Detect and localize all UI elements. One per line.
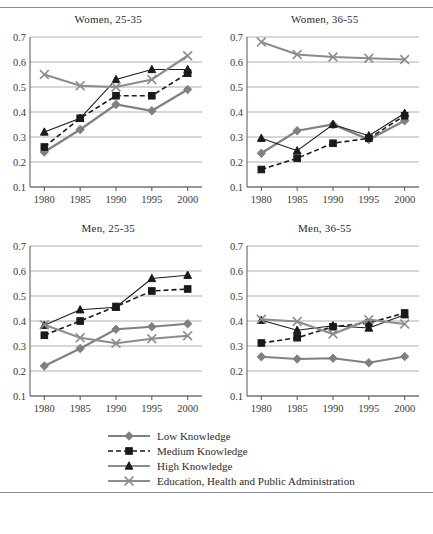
- svg-text:2000: 2000: [394, 194, 415, 205]
- svg-text:0.2: 0.2: [229, 366, 242, 377]
- svg-text:1990: 1990: [322, 403, 343, 414]
- chart-panel-grid: Women, 25-35 0.10.20.30.40.50.60.7198019…: [0, 8, 433, 426]
- svg-text:0.5: 0.5: [229, 291, 242, 302]
- svg-text:1990: 1990: [106, 194, 127, 205]
- panel-men-36-55: Men, 36-55 0.10.20.30.40.50.60.719801985…: [217, 217, 433, 426]
- svg-text:0.7: 0.7: [229, 241, 242, 252]
- svg-text:0.7: 0.7: [13, 241, 26, 252]
- legend-label: Low Knowledge: [157, 430, 231, 442]
- svg-text:0.5: 0.5: [13, 291, 26, 302]
- svg-text:0.3: 0.3: [13, 341, 26, 352]
- svg-text:0.4: 0.4: [13, 316, 27, 327]
- svg-text:0.4: 0.4: [229, 316, 243, 327]
- svg-text:2000: 2000: [177, 403, 198, 414]
- svg-text:2000: 2000: [394, 403, 415, 414]
- panel-title: Women, 25-35: [0, 13, 217, 25]
- plot-area-women-25-35: 0.10.20.30.40.50.60.71980198519901995200…: [0, 27, 217, 217]
- diamond-marker-icon: [106, 429, 152, 443]
- svg-text:1985: 1985: [70, 403, 91, 414]
- legend-item-medium-knowledge: Medium Knowledge: [106, 443, 433, 458]
- svg-text:1990: 1990: [322, 194, 343, 205]
- svg-text:1995: 1995: [141, 403, 162, 414]
- svg-text:0.4: 0.4: [229, 107, 243, 118]
- svg-text:1980: 1980: [34, 194, 55, 205]
- legend-label: Education, Health and Public Administrat…: [157, 475, 355, 487]
- bottom-divider-rule: [0, 492, 433, 493]
- svg-text:0.3: 0.3: [229, 132, 242, 143]
- triangle-marker-icon: [106, 459, 152, 473]
- svg-text:1995: 1995: [358, 194, 379, 205]
- svg-text:1980: 1980: [34, 403, 55, 414]
- svg-text:2000: 2000: [177, 194, 198, 205]
- x-marker-icon: [106, 474, 152, 488]
- svg-text:0.1: 0.1: [13, 391, 26, 402]
- svg-text:0.6: 0.6: [13, 57, 26, 68]
- svg-text:0.1: 0.1: [229, 391, 242, 402]
- svg-text:0.2: 0.2: [13, 157, 26, 168]
- svg-text:1980: 1980: [250, 403, 271, 414]
- panel-title: Women, 36-55: [217, 13, 433, 25]
- svg-text:0.7: 0.7: [229, 32, 242, 43]
- square-marker-icon: [106, 444, 152, 458]
- svg-text:1995: 1995: [358, 403, 379, 414]
- svg-text:1980: 1980: [250, 194, 271, 205]
- plot-area-men-25-35: 0.10.20.30.40.50.60.71980198519901995200…: [0, 236, 217, 426]
- svg-text:1985: 1985: [286, 403, 307, 414]
- svg-text:0.7: 0.7: [13, 32, 26, 43]
- svg-text:0.1: 0.1: [229, 182, 242, 193]
- panel-women-36-55: Women, 36-55 0.10.20.30.40.50.60.7198019…: [217, 8, 433, 217]
- svg-text:0.2: 0.2: [229, 157, 242, 168]
- svg-text:0.5: 0.5: [13, 82, 26, 93]
- svg-text:0.3: 0.3: [13, 132, 26, 143]
- legend-label: High Knowledge: [157, 460, 232, 472]
- legend-item-high-knowledge: High Knowledge: [106, 458, 433, 473]
- svg-text:0.4: 0.4: [13, 107, 27, 118]
- panel-men-25-35: Men, 25-35 0.10.20.30.40.50.60.719801985…: [0, 217, 217, 426]
- plot-area-men-36-55: 0.10.20.30.40.50.60.71980198519901995200…: [217, 236, 433, 426]
- panel-title: Men, 25-35: [0, 222, 217, 234]
- chart-legend: Low Knowledge Medium Knowledge High Know…: [0, 428, 433, 488]
- svg-text:0.5: 0.5: [229, 82, 242, 93]
- plot-area-women-36-55: 0.10.20.30.40.50.60.71980198519901995200…: [217, 27, 433, 217]
- panel-women-25-35: Women, 25-35 0.10.20.30.40.50.60.7198019…: [0, 8, 217, 217]
- svg-text:0.6: 0.6: [229, 266, 242, 277]
- svg-text:0.1: 0.1: [13, 182, 26, 193]
- legend-label: Medium Knowledge: [157, 445, 248, 457]
- legend-item-education-health-public-administration: Education, Health and Public Administrat…: [106, 473, 433, 488]
- svg-text:1995: 1995: [141, 194, 162, 205]
- svg-text:1985: 1985: [70, 194, 91, 205]
- svg-text:0.6: 0.6: [13, 266, 26, 277]
- panel-title: Men, 36-55: [217, 222, 433, 234]
- svg-text:0.2: 0.2: [13, 366, 26, 377]
- legend-item-low-knowledge: Low Knowledge: [106, 428, 433, 443]
- svg-text:0.3: 0.3: [229, 341, 242, 352]
- svg-text:1990: 1990: [106, 403, 127, 414]
- svg-text:1985: 1985: [286, 194, 307, 205]
- svg-text:0.6: 0.6: [229, 57, 242, 68]
